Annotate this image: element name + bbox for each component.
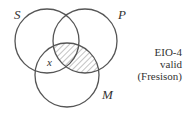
x-mark: x [47, 56, 52, 69]
caption-validity: valid [137, 58, 182, 70]
label-p: P [118, 8, 126, 21]
caption-form: EIO-4 [137, 46, 182, 58]
caption-name: (Fresison) [137, 70, 182, 82]
caption: EIO-4 valid (Fresison) [137, 46, 182, 82]
label-s: S [14, 8, 21, 21]
label-m: M [102, 88, 113, 101]
